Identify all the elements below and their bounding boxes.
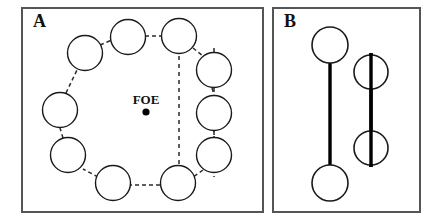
panel-a: A [22,8,263,212]
circle-top-right-upper [162,19,197,54]
circle-bottom-left [96,166,131,201]
panel-b-label: B [284,11,296,31]
circle-left-bottom [312,165,348,201]
circle-bottom-right [161,166,196,201]
circle-left-top [312,27,348,63]
foe-label: FOE [133,92,160,107]
circle-right-lower [197,138,232,173]
circle-right-upper [197,53,232,88]
circle-left-lower [51,138,86,173]
figure-canvas: A [0,0,436,222]
panel-a-label: A [33,11,46,31]
foe-dot-icon [142,108,149,115]
figure-root: A [0,0,436,222]
circle-upper-left [68,36,103,71]
panel-b: B [273,8,420,212]
circle-right-middle [197,96,232,131]
circle-left-middle [43,93,78,128]
circle-top-left-upper [111,20,146,55]
